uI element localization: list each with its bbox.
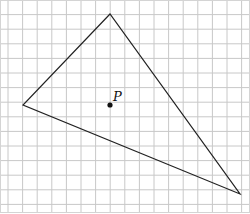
grid-lines xyxy=(0,0,250,213)
triangle xyxy=(23,14,240,194)
grid-diagram: P xyxy=(0,0,250,214)
point-p-dot xyxy=(107,102,112,107)
point-p-label: P xyxy=(112,89,122,104)
